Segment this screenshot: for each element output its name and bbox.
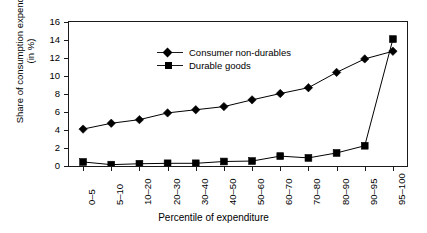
y-axis-title-line2: (in %) xyxy=(25,0,36,136)
data-point-square xyxy=(333,150,340,157)
data-point-square xyxy=(361,142,368,149)
plot-area: Consumer non-durables Durable goods xyxy=(68,21,408,167)
x-tick-mark xyxy=(168,167,169,171)
x-tick-label: 90–95 xyxy=(369,179,379,205)
x-tick-mark xyxy=(83,167,84,171)
data-point-diamond xyxy=(304,84,312,92)
data-point-diamond xyxy=(107,119,115,127)
data-point-square xyxy=(249,158,256,165)
x-tick-mark xyxy=(139,167,140,171)
data-point-diamond xyxy=(332,68,340,76)
chart-container: Share of consumption expenditure (in %) … xyxy=(0,0,427,233)
x-tick-mark xyxy=(111,167,112,171)
data-point-square xyxy=(305,155,312,162)
data-point-diamond xyxy=(192,106,200,114)
x-tick-mark xyxy=(196,167,197,171)
legend-label-durable-goods: Durable goods xyxy=(185,59,251,72)
data-point-square xyxy=(390,36,397,43)
diamond-marker-icon xyxy=(155,46,185,59)
y-tick-label: 10 xyxy=(40,71,60,81)
x-tick-label: 30–40 xyxy=(200,179,210,205)
y-tick-label: 2 xyxy=(40,143,60,153)
x-axis-title: Percentile of expenditure xyxy=(0,212,427,223)
data-point-square xyxy=(108,161,115,166)
data-point-diamond xyxy=(79,125,87,133)
data-point-square xyxy=(192,160,199,166)
y-tick-label: 0 xyxy=(40,161,60,171)
y-axis-title: Share of consumption expenditure (in %) xyxy=(14,0,36,136)
legend-item-durable-goods: Durable goods xyxy=(155,59,291,72)
y-tick-label: 16 xyxy=(40,17,60,27)
x-tick-label: 60–70 xyxy=(284,179,294,205)
data-point-square xyxy=(277,153,284,160)
data-point-diamond xyxy=(361,55,369,63)
x-tick-label: 0–5 xyxy=(87,189,97,205)
data-point-square xyxy=(164,160,171,166)
x-tick-label: 10–20 xyxy=(143,179,153,205)
x-tick-mark xyxy=(252,167,253,171)
data-point-square xyxy=(221,158,228,165)
data-point-diamond xyxy=(276,89,284,97)
data-point-square xyxy=(80,159,87,166)
y-axis-title-line1: Share of consumption expenditure xyxy=(14,0,25,123)
x-tick-label: 50–60 xyxy=(256,179,266,205)
series-lines xyxy=(69,22,407,166)
x-tick-mark xyxy=(365,167,366,171)
legend-label-consumer-non-durables: Consumer non-durables xyxy=(185,46,291,59)
x-tick-label: 80–90 xyxy=(341,179,351,205)
x-tick-label: 20–30 xyxy=(172,179,182,205)
x-tick-label: 40–50 xyxy=(228,179,238,205)
y-tick-label: 12 xyxy=(40,53,60,63)
x-tick-label: 95–100 xyxy=(397,173,407,205)
data-point-diamond xyxy=(163,109,171,117)
data-point-diamond xyxy=(220,102,228,110)
data-point-diamond xyxy=(135,115,143,123)
data-point-diamond xyxy=(248,96,256,104)
y-tick-label: 6 xyxy=(40,107,60,117)
y-tick-label: 4 xyxy=(40,125,60,135)
chart-legend: Consumer non-durables Durable goods xyxy=(155,46,291,72)
data-point-square xyxy=(136,160,143,166)
x-tick-label: 70–80 xyxy=(312,179,322,205)
square-marker-icon xyxy=(155,59,185,72)
x-tick-mark xyxy=(224,167,225,171)
y-tick-label: 8 xyxy=(40,89,60,99)
x-tick-label: 5–10 xyxy=(115,184,125,205)
y-tick-label: 14 xyxy=(40,35,60,45)
x-tick-mark xyxy=(280,167,281,171)
x-tick-mark xyxy=(393,167,394,171)
x-tick-mark xyxy=(337,167,338,171)
legend-item-consumer-non-durables: Consumer non-durables xyxy=(155,46,291,59)
x-tick-mark xyxy=(308,167,309,171)
